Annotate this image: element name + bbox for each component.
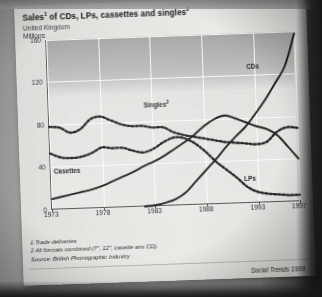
y-tick-80: 80 xyxy=(37,121,45,128)
series-line-singles xyxy=(49,109,298,151)
x-tick-1978: 1978 xyxy=(95,209,110,217)
photo-right-shadow xyxy=(296,0,322,297)
series-label-singles-text: Singles xyxy=(143,101,166,109)
chart-title-main: Sales xyxy=(22,13,44,23)
series-label-cds: CDs xyxy=(246,62,259,69)
photo-bottom-shadow xyxy=(0,281,322,297)
scanned-page-photo: Sales1 of CDs, LPs, cassettes and single… xyxy=(0,0,322,297)
series-lines xyxy=(46,31,300,210)
printed-page: Sales1 of CDs, LPs, cassettes and single… xyxy=(14,0,316,286)
series-label-singles: Singles2 xyxy=(143,99,169,108)
x-tick-1973: 1973 xyxy=(44,210,59,218)
chart-area: 04080120160 197319781983198819931997 Sin… xyxy=(23,31,305,227)
series-line-cds xyxy=(139,33,300,206)
x-tick-1983: 1983 xyxy=(147,207,162,215)
series-label-lps: LPs xyxy=(244,174,256,181)
x-tick-1988: 1988 xyxy=(199,205,214,213)
y-tick-120: 120 xyxy=(32,79,43,86)
photo-top-edge xyxy=(0,0,322,9)
x-tick-1993: 1993 xyxy=(250,203,265,211)
chart-footnotes: 1 Trade deliveries 2 All formats combine… xyxy=(30,229,307,264)
series-label-cassettes: Casettes xyxy=(54,167,81,175)
series-line-cassettes xyxy=(49,113,300,199)
y-tick-160: 160 xyxy=(30,36,41,43)
plot-area xyxy=(45,31,299,210)
y-tick-40: 40 xyxy=(38,164,46,171)
